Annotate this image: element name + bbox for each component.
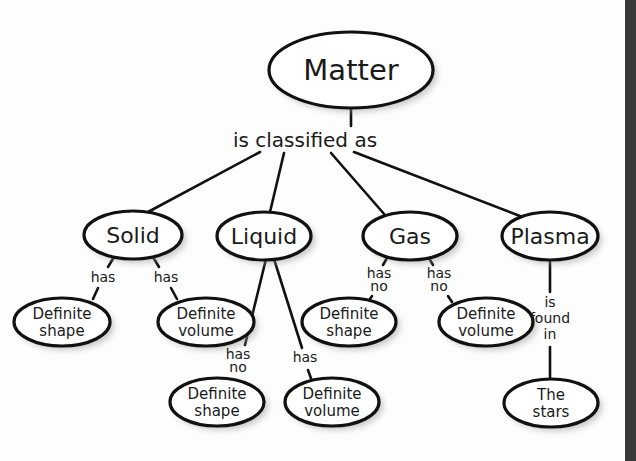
node-label-line1: Definite (176, 305, 235, 323)
link-liquid-volume: has (293, 349, 318, 365)
node-label: Solid (106, 223, 160, 248)
link-gas-shape-line2: no (370, 278, 387, 294)
node-label-line2: shape (326, 322, 371, 340)
node-label: Plasma (510, 224, 589, 249)
link-plasma-line2: found (530, 310, 570, 326)
node-label-line2: volume (178, 322, 234, 340)
connector-liquid (270, 153, 284, 212)
node-label-line1: Definite (302, 385, 361, 403)
node-plasma: Plasma (502, 212, 602, 264)
node-label-line1: Definite (32, 305, 91, 323)
link-plasma-line3: in (544, 326, 557, 342)
node-gas-definite-volume: Definite volume (439, 298, 537, 350)
node-label-line1: Definite (456, 305, 515, 323)
connector-gas (331, 153, 385, 215)
link-solid-shape: has (91, 269, 116, 285)
node-matter: Matter (269, 32, 437, 112)
connector-solid-volume-bottom (171, 288, 177, 299)
node-label: Matter (303, 53, 398, 87)
node-gas: Gas (363, 212, 461, 264)
concept-map: Matter is classified as Solid Liquid Gas… (0, 0, 625, 461)
node-liquid: Liquid (217, 212, 315, 264)
node-label-line1: Definite (187, 385, 246, 403)
node-gas-definite-shape: Definite shape (302, 298, 400, 350)
link-liquid-shape-line2: no (229, 359, 246, 375)
node-solid-definite-shape: Definite shape (14, 298, 114, 350)
node-label-line2: shape (39, 322, 84, 340)
node-label-line2: volume (458, 322, 514, 340)
link-gas-volume-line2: no (430, 278, 447, 294)
node-the-stars: The stars (504, 379, 602, 431)
connector-solid (148, 152, 260, 212)
node-label-line1: The (536, 386, 565, 404)
node-label-line2: stars (533, 403, 570, 421)
connector-gas-volume-bottom (448, 296, 452, 302)
node-label-line2: volume (304, 402, 360, 420)
node-liquid-definite-shape: Definite shape (170, 378, 268, 430)
link-plasma-line1: is (544, 294, 555, 310)
node-solid-definite-volume: Definite volume (158, 298, 258, 350)
node-solid: Solid (84, 211, 186, 263)
connector-solid-shape-bottom (93, 288, 98, 299)
node-liquid-definite-volume: Definite volume (285, 378, 383, 430)
node-label-line1: Definite (319, 305, 378, 323)
node-label: Gas (389, 224, 431, 249)
link-solid-volume: has (154, 269, 179, 285)
node-label: Liquid (231, 224, 297, 249)
right-edge-bar (625, 0, 636, 461)
connector-liquid-volume-top (274, 259, 302, 348)
link-is-classified-as: is classified as (233, 128, 377, 152)
node-label-line2: shape (194, 402, 239, 420)
